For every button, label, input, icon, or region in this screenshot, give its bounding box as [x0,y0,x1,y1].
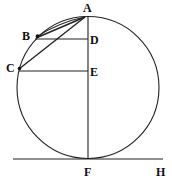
label-b: B [22,29,30,43]
label-c: C [6,61,15,75]
label-e: E [90,65,98,79]
label-a: A [83,1,92,15]
chord-ab [36,17,85,38]
point-b-dot [36,34,40,38]
label-f: F [84,165,91,179]
label-d: D [90,33,99,47]
label-h: H [156,165,166,179]
point-c-dot [18,67,22,71]
chord-ac [19,17,85,69]
geometry-diagram: A B C D E F H [0,0,172,181]
